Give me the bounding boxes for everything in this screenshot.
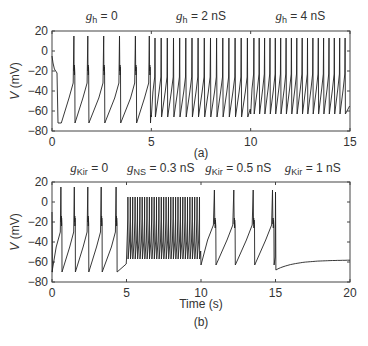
y-tick-label: −80 xyxy=(28,124,49,138)
x-tick-label: 10 xyxy=(244,135,258,149)
condition-annotation: gh = 4 nS xyxy=(275,8,325,25)
y-tick-label: −60 xyxy=(28,255,49,269)
x-tick-label: 20 xyxy=(343,286,357,300)
condition-annotation: gKir = 1 nS xyxy=(285,160,341,177)
axes-frame xyxy=(52,31,350,131)
panel-label: (b) xyxy=(194,315,209,329)
condition-annotation: gh = 0 xyxy=(86,8,118,25)
x-tick-label: 0 xyxy=(49,135,56,149)
y-tick-label: 20 xyxy=(35,24,49,38)
panel-b-chart: −80−60−40−2002005101520V (mV)Time (s)(b)… xyxy=(8,160,357,329)
x-tick-label: 5 xyxy=(123,286,130,300)
condition-annotation: gKir = 0 xyxy=(70,160,108,177)
condition-annotation: gh = 2 nS xyxy=(176,8,226,25)
y-tick-label: −20 xyxy=(28,64,49,78)
y-tick-label: 0 xyxy=(41,195,48,209)
x-axis-label: Time (s) xyxy=(179,297,223,311)
y-axis-label: V (mV) xyxy=(8,213,22,250)
y-tick-label: 20 xyxy=(35,175,49,189)
x-tick-label: 15 xyxy=(343,135,357,149)
y-tick-label: −40 xyxy=(28,235,49,249)
y-tick-label: −60 xyxy=(28,104,49,118)
y-tick-label: 0 xyxy=(41,44,48,58)
voltage-trace xyxy=(52,36,350,123)
x-tick-label: 0 xyxy=(49,286,56,300)
panel-a-chart: −80−60−40−20020051015V (mV)(a)gh = 0gh =… xyxy=(8,8,357,160)
figure: −80−60−40−20020051015V (mV)(a)gh = 0gh =… xyxy=(0,0,368,346)
x-tick-label: 15 xyxy=(269,286,283,300)
condition-annotation: gNS = 0.3 nS xyxy=(127,160,194,177)
voltage-trace xyxy=(52,187,350,272)
y-tick-label: −40 xyxy=(28,84,49,98)
panel-label: (a) xyxy=(194,146,209,160)
y-tick-label: −20 xyxy=(28,215,49,229)
y-tick-label: −80 xyxy=(28,275,49,289)
y-axis-label: V (mV) xyxy=(8,62,22,99)
axes-frame xyxy=(52,182,350,282)
x-tick-label: 5 xyxy=(148,135,155,149)
condition-annotation: gKir = 0.5 nS xyxy=(205,160,271,177)
